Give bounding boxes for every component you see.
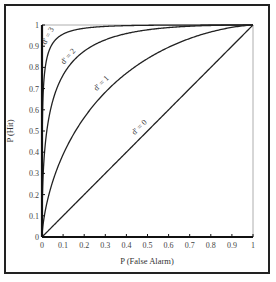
roc-chart: 00.10.20.30.40.50.60.70.80.91 00.10.20.3… bbox=[0, 0, 276, 282]
x-tick-label: 1 bbox=[251, 241, 255, 250]
x-tick-label: 0.9 bbox=[227, 241, 237, 250]
y-tick-label: 0.1 bbox=[29, 212, 39, 221]
curve-label-d2: d' = 2 bbox=[59, 47, 78, 66]
x-tick-label: 0.7 bbox=[185, 241, 195, 250]
y-tick-label: 0.6 bbox=[29, 106, 39, 115]
x-tick-label: 0.6 bbox=[164, 241, 174, 250]
y-tick-label: 0.2 bbox=[29, 191, 39, 200]
x-axis-title: P (False Alarm) bbox=[120, 256, 174, 266]
x-tick-label: 0.3 bbox=[100, 241, 110, 250]
y-tick-label: 0 bbox=[35, 233, 39, 242]
y-tick-label: 0.3 bbox=[29, 169, 39, 178]
y-tick-label: 1 bbox=[35, 21, 39, 30]
x-tick-label: 0 bbox=[40, 241, 44, 250]
y-tick-label: 0.5 bbox=[29, 127, 39, 136]
x-tick-label: 0.8 bbox=[206, 241, 216, 250]
x-tick-label: 0.2 bbox=[79, 241, 89, 250]
x-tick-label: 0.5 bbox=[143, 241, 153, 250]
y-tick-label: 0.7 bbox=[29, 85, 39, 94]
curve-label-d0: d' = 0 bbox=[130, 118, 149, 137]
y-tick-label: 0.4 bbox=[29, 148, 39, 157]
x-tick-label: 0.4 bbox=[121, 241, 131, 250]
x-tick-label: 0.1 bbox=[58, 241, 68, 250]
y-axis-title: P (Hit) bbox=[5, 119, 15, 142]
y-tick-label: 0.8 bbox=[29, 63, 39, 72]
y-tick-label: 0.9 bbox=[29, 42, 39, 51]
